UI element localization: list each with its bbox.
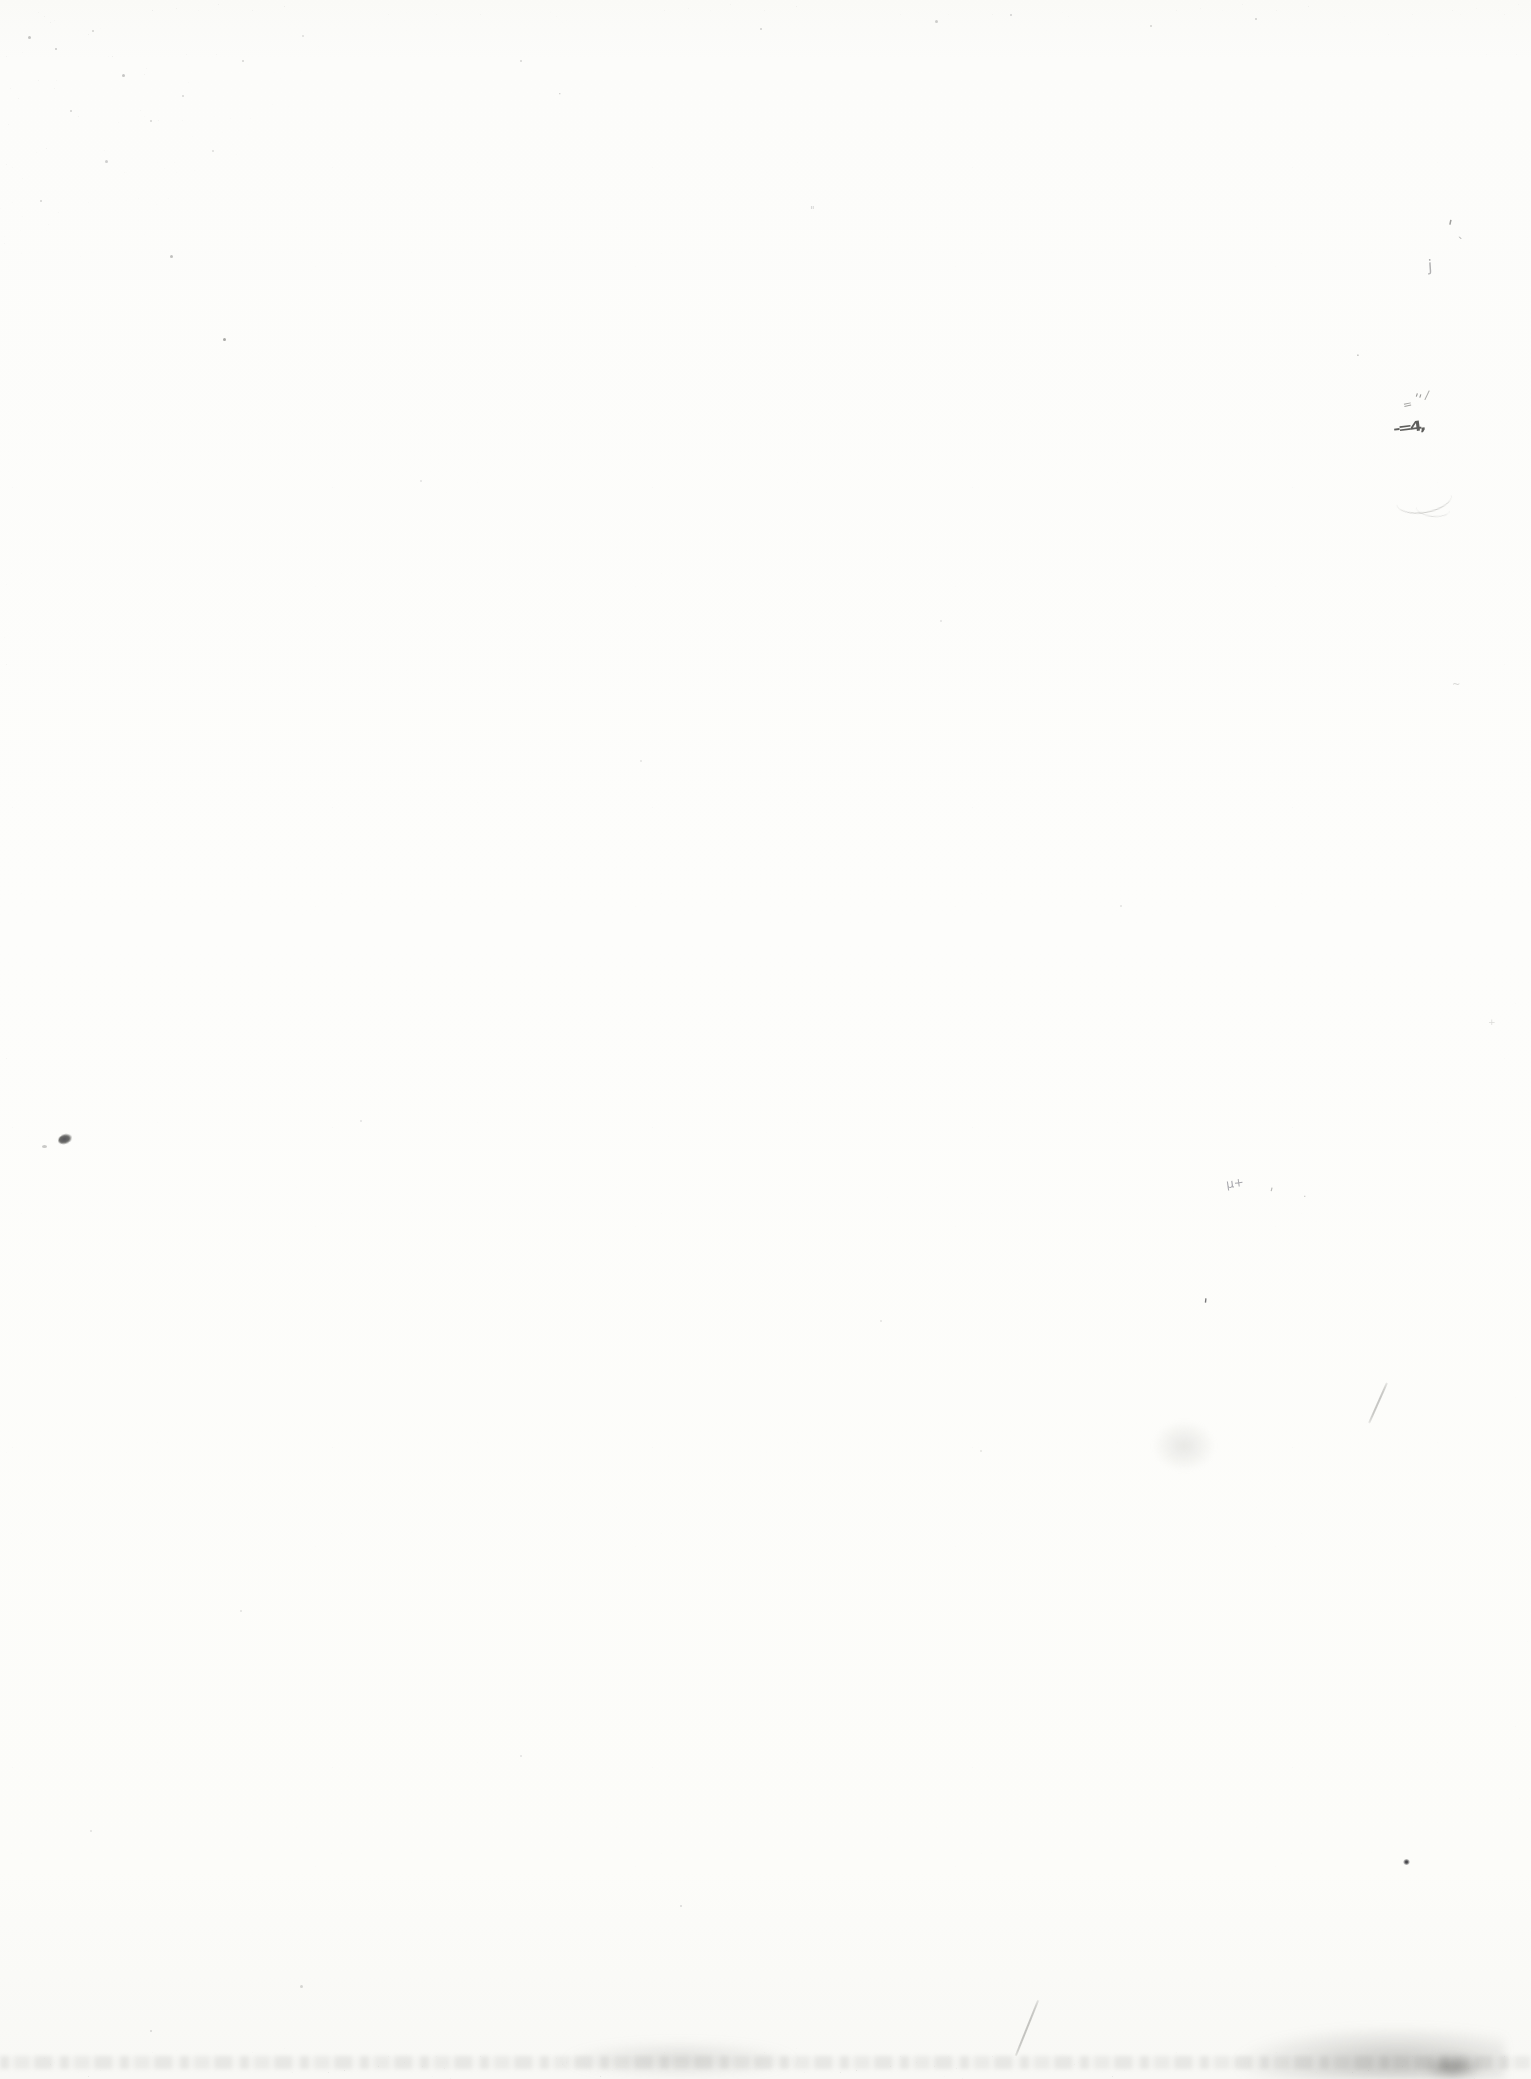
pencil-j-mark: j (1427, 258, 1433, 274)
paper-speck (55, 48, 57, 50)
paper-speck (1010, 14, 1012, 16)
pencil-double-tick: '' (1412, 391, 1423, 406)
pencil-mu-plus: µ+ (1225, 1176, 1244, 1190)
scratch-diagonal-bottom (1015, 2000, 1039, 2056)
paper-speck (90, 1830, 92, 1832)
pencil-comma-mid: ' (1267, 1186, 1274, 1199)
fleck-mid-right-1: . (1356, 346, 1360, 358)
faint-mark-right-2: + (1488, 1018, 1496, 1027)
paper-speck (520, 60, 522, 62)
scanned-blank-page: '`j.=''/-=4,µ+'.'"·~+ (0, 0, 1531, 2079)
dark-dot-lower-right (1403, 1859, 1410, 1865)
paper-speck (70, 110, 72, 112)
paper-speck (935, 20, 938, 23)
smudge-mid-right (1152, 1420, 1216, 1472)
pencil-scratch-dark: -=4, (1392, 418, 1424, 436)
paper-speck (182, 95, 184, 97)
paper-speck (240, 1610, 242, 1612)
paper-speck (760, 28, 762, 30)
paper-speck (150, 2030, 152, 2032)
paper-speck (300, 1985, 303, 1988)
paper-speck (1255, 18, 1257, 20)
faint-mark-top-left: · (558, 88, 562, 99)
paper-speck (223, 338, 226, 341)
faint-mark-top-center: " (810, 206, 815, 216)
paper-speck (150, 120, 152, 122)
paper-speck (302, 35, 304, 37)
paper-speck (212, 150, 214, 152)
pencil-f-tick: ' (1202, 1297, 1208, 1313)
paper-speck (242, 60, 244, 62)
pencil-slash-tick: / (1424, 389, 1430, 401)
faint-mark-right-1: ~ (1452, 680, 1460, 690)
paper-speck (520, 1755, 522, 1757)
ink-blot-left (57, 1132, 73, 1145)
paper-speck (680, 1905, 682, 1907)
paper-speck (40, 200, 42, 202)
paper-speck (1120, 905, 1122, 907)
paper-speck (170, 255, 173, 258)
pencil-tick-top-right: ` (1457, 236, 1465, 250)
artifact-layer: '`j.=''/-=4,µ+'.'"·~+ (0, 0, 1531, 2079)
paper-speck (940, 620, 942, 622)
paper-speck (880, 1320, 882, 1322)
ink-blot-left-speck (42, 1145, 47, 1148)
pencil-apostrophe-top-right: ' (1445, 218, 1454, 237)
paper-speck (92, 30, 94, 32)
paper-speck (420, 480, 422, 482)
paper-speck (122, 74, 125, 77)
paper-speck (1150, 25, 1152, 27)
fleck-mid-right-2: . (1303, 1188, 1307, 1199)
scratch-diagonal-mid-right (1368, 1382, 1388, 1423)
paper-speck (105, 160, 108, 163)
paper-speck (980, 1450, 982, 1452)
paper-speck (360, 1120, 362, 1122)
paper-speck (28, 36, 31, 39)
paper-speck (640, 760, 642, 762)
